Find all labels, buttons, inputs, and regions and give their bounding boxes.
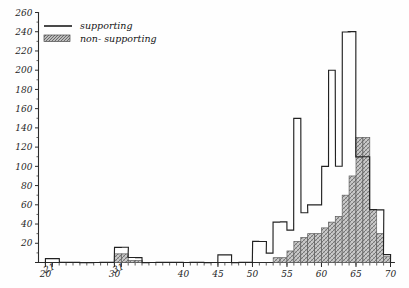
legend-label-non-supporting: non- supporting xyxy=(80,33,157,44)
y-tick-label: 200 xyxy=(14,65,32,75)
bar-non-supporting xyxy=(121,254,128,263)
bar-non-supporting xyxy=(128,261,135,263)
bar-non-supporting xyxy=(315,234,322,263)
bar-non-supporting xyxy=(294,241,301,262)
x-tick-label: 45 xyxy=(211,269,224,279)
x-tick-label: 70 xyxy=(385,269,397,279)
y-tick-label: 40 xyxy=(20,219,33,229)
bar-non-supporting xyxy=(384,257,391,263)
bar-non-supporting xyxy=(280,258,287,263)
y-tick-label: 260 xyxy=(14,8,32,18)
y-tick-label: 20 xyxy=(20,238,33,248)
bar-non-supporting xyxy=(335,216,342,262)
y-tick-label: 80 xyxy=(21,181,33,191)
bar-non-supporting xyxy=(370,210,377,263)
legend-item-supporting: supporting xyxy=(44,20,132,31)
bar-non-supporting xyxy=(356,138,363,263)
bar-non-supporting xyxy=(321,228,328,263)
y-tick-label: 120 xyxy=(15,142,32,152)
y-tick-label: 140 xyxy=(15,123,32,133)
legend-label-supporting: supporting xyxy=(80,20,132,31)
bar-non-supporting xyxy=(301,238,308,263)
y-tick-label: 100 xyxy=(15,162,32,172)
x-tick-label: 50 xyxy=(247,269,259,279)
legend-item-non-supporting: non- supporting xyxy=(44,33,157,44)
bar-non-supporting xyxy=(328,222,335,262)
x-tick-label: 55 xyxy=(281,269,293,279)
bar-non-supporting xyxy=(377,234,384,263)
x-tick-label: 60 xyxy=(316,269,328,279)
bar-non-supporting xyxy=(308,234,315,263)
chart-container: 2040608010012014016018020022024026020213… xyxy=(0,0,409,288)
y-tick-label: 180 xyxy=(15,85,32,95)
plot-area: 2040608010012014016018020022024026020213… xyxy=(14,8,396,279)
bar-non-supporting xyxy=(135,261,142,263)
y-tick-label: 160 xyxy=(15,104,32,114)
histogram-chart: 2040608010012014016018020022024026020213… xyxy=(0,0,409,288)
y-tick-label: 220 xyxy=(14,46,32,56)
y-tick-label: 60 xyxy=(21,200,33,210)
x-tick-label: 65 xyxy=(350,269,362,279)
bar-non-supporting xyxy=(114,254,121,263)
bar-non-supporting xyxy=(287,251,294,263)
bar-non-supporting xyxy=(349,176,356,263)
x-tick-label: 40 xyxy=(177,269,190,279)
bar-non-supporting xyxy=(273,258,280,263)
chart-legend: supportingnon- supporting xyxy=(44,20,157,43)
legend-swatch-hatch xyxy=(44,35,70,42)
x-tick-label: 31 xyxy=(111,261,125,275)
y-tick-label: 240 xyxy=(14,27,32,37)
bar-non-supporting xyxy=(342,195,349,262)
